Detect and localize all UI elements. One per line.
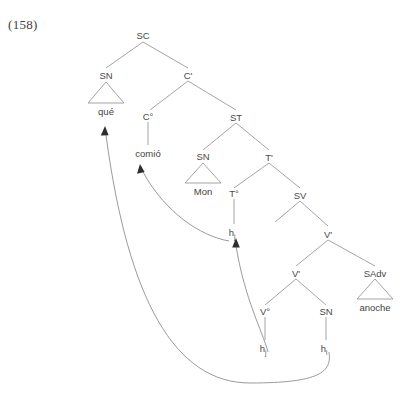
- branch-vbar-sadv: [328, 240, 375, 266]
- branch-st-tbar: [236, 123, 269, 150]
- node-sadv: SAdv: [364, 268, 387, 279]
- branch-vbar-vbar: [296, 240, 328, 266]
- trace-v-subscript: j: [264, 349, 266, 357]
- tree-canvas: SC SN C' C° ST SN T' T° SV V' V' V° SN S…: [0, 0, 417, 398]
- trace-t: hj: [229, 227, 236, 241]
- node-v-bar-lower: V': [292, 268, 300, 279]
- branch-tbar-thead: [234, 163, 269, 188]
- node-sn-subject: SN: [196, 151, 209, 162]
- leaf-mon: Mon: [194, 186, 212, 197]
- movement-arrows: [101, 126, 330, 383]
- node-v-head: V°: [260, 306, 270, 317]
- trace-t-subscript: j: [233, 233, 235, 241]
- leaf-comio: comió: [135, 148, 160, 159]
- branch-sc-cbar: [143, 42, 188, 68]
- node-sn-object: SN: [319, 306, 332, 317]
- arrow-v-to-t-path: [236, 246, 268, 352]
- branch-vbar-snobj: [296, 279, 326, 305]
- node-sn-spec: SN: [99, 70, 112, 81]
- node-sc: SC: [136, 30, 149, 41]
- node-sv: SV: [294, 190, 307, 201]
- branch-cbar-st: [188, 81, 236, 110]
- trace-sn: hi: [321, 343, 328, 356]
- node-st: ST: [230, 112, 242, 123]
- branch-st-sn: [203, 123, 236, 150]
- triangle-sn-que: [88, 82, 124, 103]
- arrow-wh-movement-head: [101, 126, 109, 136]
- node-c-head: C°: [143, 111, 154, 122]
- branch-cbar-chead: [150, 81, 188, 110]
- branch-sc-sn: [106, 42, 143, 68]
- node-t-head: T°: [229, 188, 239, 199]
- branch-tbar-sv: [269, 163, 300, 188]
- leaf-anoche: anoche: [359, 302, 390, 313]
- tree-branches: [106, 42, 375, 340]
- branch-sv-spec: [275, 201, 300, 222]
- branch-sv-vbar: [300, 201, 328, 226]
- node-v-bar-upper: V': [324, 229, 332, 240]
- tree-node-labels: SC SN C' C° ST SN T' T° SV V' V' V° SN S…: [99, 30, 386, 317]
- trace-sn-subscript: i: [326, 349, 327, 356]
- tree-traces: hj hj hi: [229, 227, 328, 357]
- leaf-que: qué: [98, 106, 114, 117]
- triangle-sadv-anoche: [357, 279, 393, 299]
- syntax-tree-figure: (158): [0, 0, 417, 398]
- node-t-bar: T': [265, 152, 273, 163]
- branch-vbar-vhead: [265, 279, 296, 305]
- triangle-sn-mon: [185, 163, 221, 183]
- node-c-bar: C': [184, 70, 193, 81]
